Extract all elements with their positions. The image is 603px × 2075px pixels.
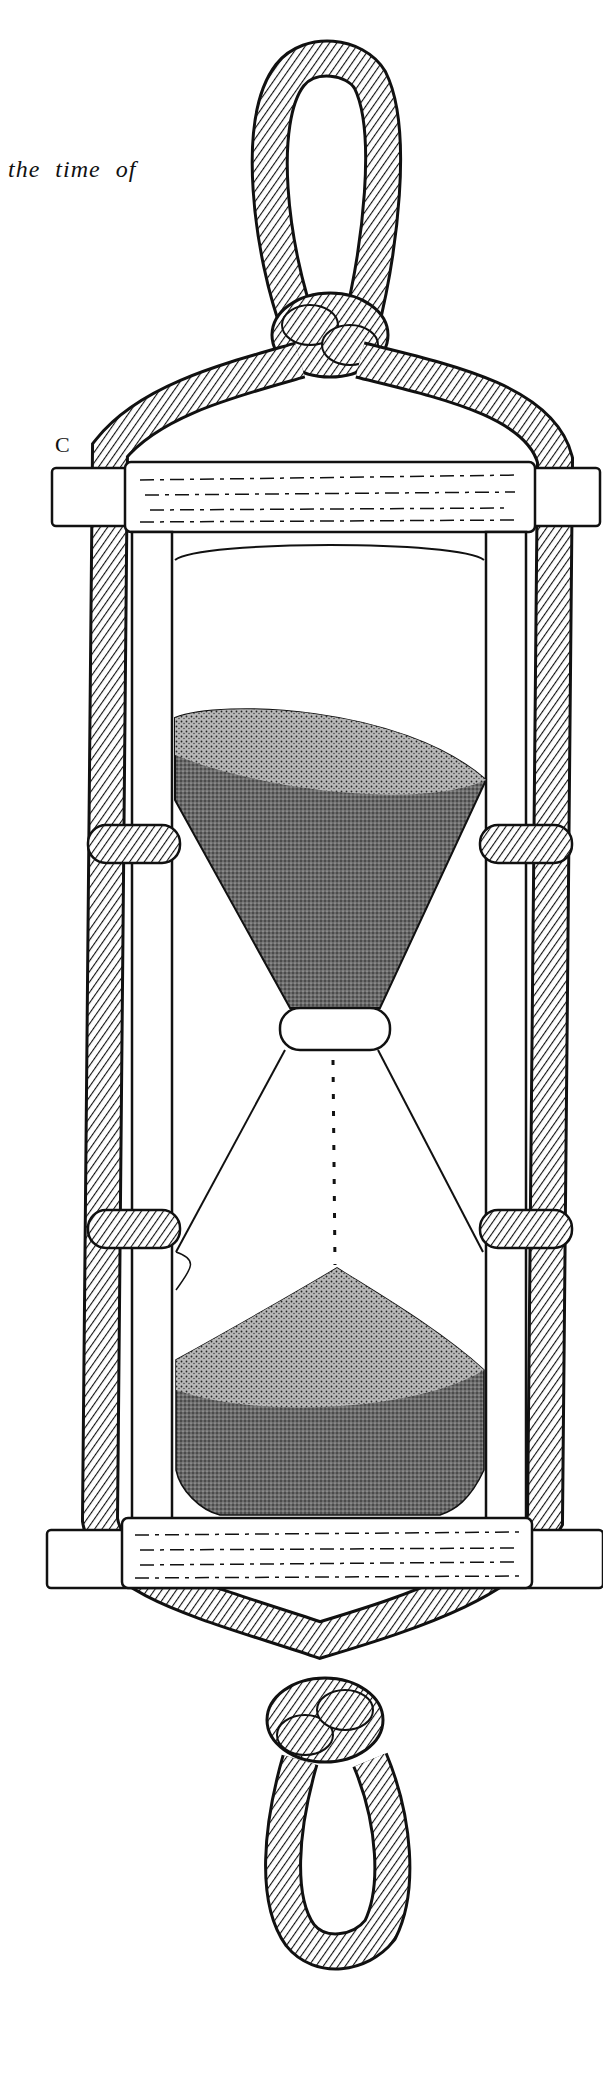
hourglass-neck [280, 1008, 390, 1050]
bottom-rope-loop [283, 1760, 392, 1951]
left-post [132, 532, 172, 1532]
upper-bulb-sand [175, 709, 486, 1008]
right-post [486, 532, 526, 1532]
lower-bulb-sand [176, 1268, 484, 1515]
top-rope-loop [270, 59, 383, 330]
bottom-board [47, 1518, 603, 1588]
bottom-knot [267, 1678, 383, 1762]
hourglass-illustration [0, 0, 603, 2075]
top-board [52, 462, 600, 532]
falling-sand-stream [333, 1060, 335, 1265]
